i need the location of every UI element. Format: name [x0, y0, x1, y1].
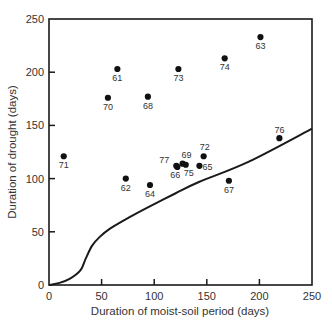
data-point-label: 74 — [220, 62, 230, 72]
x-tick-label: 150 — [198, 290, 216, 302]
data-point-label: 69 — [182, 150, 192, 160]
data-point — [257, 34, 263, 40]
data-point — [145, 94, 151, 100]
data-point-label: 66 — [170, 170, 180, 180]
data-point-label: 64 — [145, 189, 155, 199]
y-tick-label: 50 — [32, 226, 44, 238]
data-point-label: 70 — [103, 102, 113, 112]
data-point — [114, 66, 120, 72]
x-tick-label: 50 — [95, 290, 107, 302]
data-point-label: 76 — [274, 125, 284, 135]
data-point-label: 75 — [184, 168, 194, 178]
data-point-label: 62 — [121, 183, 131, 193]
y-tick-label: 250 — [26, 13, 44, 25]
x-axis-title: Duration of moist-soil period (days) — [91, 305, 269, 317]
y-axis-title: Duration of drought (days) — [6, 85, 18, 219]
x-tick-label: 250 — [303, 290, 321, 302]
data-point — [105, 95, 111, 101]
y-tick-label: 0 — [38, 279, 44, 291]
data-point — [147, 182, 153, 188]
data-point-label: 61 — [112, 73, 122, 83]
data-point-label: 71 — [59, 160, 69, 170]
axis-ticks: 050100150200250050100150200250 — [26, 13, 322, 302]
data-point-label: 77 — [159, 155, 169, 165]
scatter-chart: 050100150200250050100150200250 716170687… — [0, 0, 332, 330]
threshold-curve — [49, 129, 312, 285]
data-point-label: 73 — [173, 73, 183, 83]
data-point-label: 72 — [200, 142, 210, 152]
data-point — [123, 176, 129, 182]
data-point-label: 67 — [224, 185, 234, 195]
data-point — [222, 55, 228, 61]
data-point — [61, 153, 67, 159]
data-points: 7161706873746362647766697565727667 — [59, 34, 285, 199]
data-point-label: 63 — [255, 41, 265, 51]
data-point — [276, 135, 282, 141]
y-tick-label: 150 — [26, 119, 44, 131]
plot-frame — [49, 19, 312, 285]
x-tick-label: 200 — [250, 290, 268, 302]
data-point — [226, 178, 232, 184]
plot-border — [49, 19, 312, 285]
data-point-label: 68 — [143, 101, 153, 111]
data-point — [201, 153, 207, 159]
x-tick-label: 100 — [145, 290, 163, 302]
data-point-label: 65 — [202, 162, 212, 172]
data-point — [175, 66, 181, 72]
x-tick-label: 0 — [46, 290, 52, 302]
y-tick-label: 200 — [26, 66, 44, 78]
y-tick-label: 100 — [26, 173, 44, 185]
